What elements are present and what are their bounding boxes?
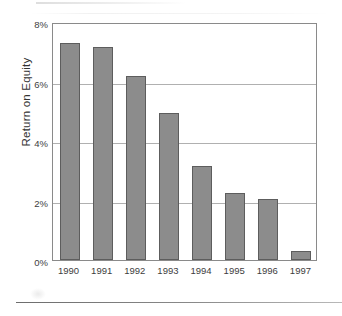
y-axis-title: Return on Equity: [20, 32, 32, 172]
bar-1990: [60, 43, 80, 260]
bar-1996: [258, 199, 278, 260]
bar-1992: [126, 76, 146, 260]
x-axis-tick-label: 1990: [58, 265, 79, 276]
y-axis-tick-label: 8%: [34, 19, 48, 30]
bar-1991: [93, 47, 113, 260]
plot-area: 0%2%4%6%8%: [52, 23, 317, 261]
y-axis-tick-label: 4%: [34, 138, 48, 149]
bar-1994: [192, 166, 212, 260]
x-axis-tick-label: 1996: [257, 265, 278, 276]
bar-1993: [159, 113, 179, 260]
x-axis-tick-label: 1995: [224, 265, 245, 276]
bars-layer: [53, 24, 316, 260]
y-axis-tick-label: 6%: [34, 78, 48, 89]
x-axis-tick-label: 1992: [124, 265, 145, 276]
y-axis-tick-label: 2%: [34, 197, 48, 208]
y-axis-tick-label: 0%: [34, 257, 48, 268]
x-axis-tick-label: 1997: [290, 265, 311, 276]
x-axis-tick-label: 1991: [91, 265, 112, 276]
bar-chart: Return on Equity 0%2%4%6%8% 199019911992…: [0, 0, 342, 290]
bar-1995: [225, 193, 245, 260]
x-axis-tick-label: 1994: [190, 265, 211, 276]
x-axis-tick-label: 1993: [157, 265, 178, 276]
bottom-divider: [16, 302, 342, 303]
bar-1997: [291, 251, 311, 260]
